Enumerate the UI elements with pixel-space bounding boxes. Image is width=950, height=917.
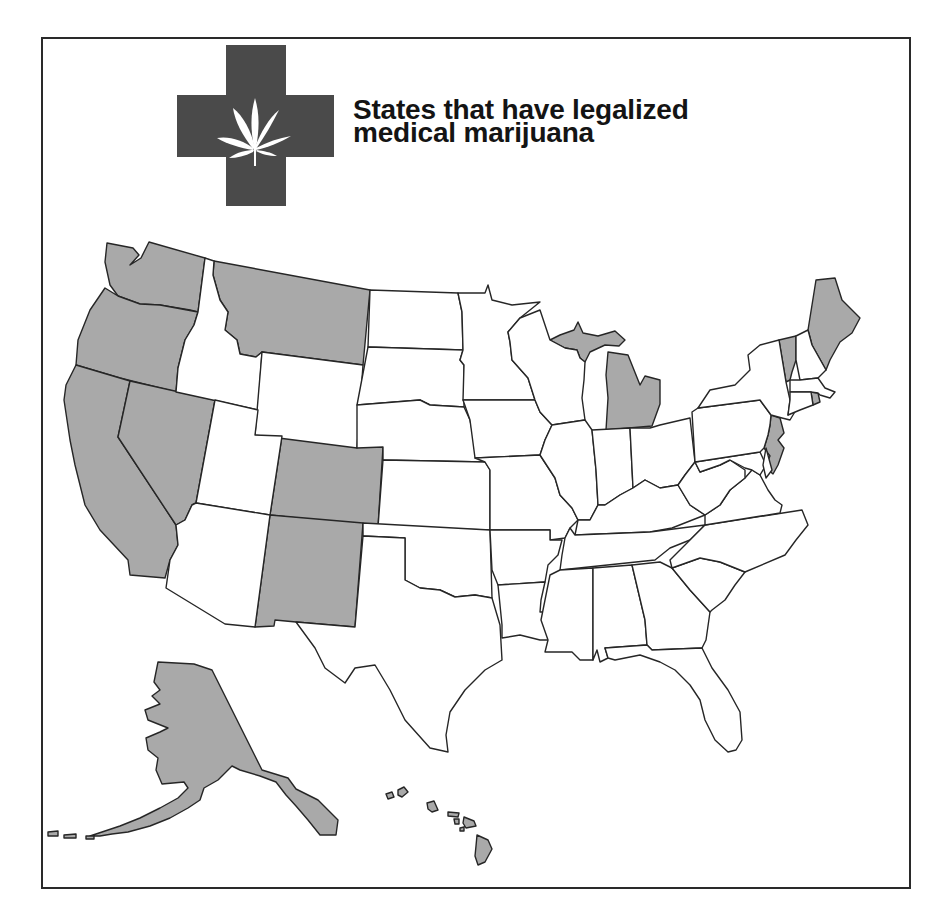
state-alaska-aleutians[interactable] bbox=[48, 831, 94, 839]
state-south-dakota[interactable] bbox=[357, 347, 464, 407]
state-florida[interactable] bbox=[605, 645, 742, 752]
state-new-mexico[interactable] bbox=[255, 515, 363, 627]
state-alaska[interactable] bbox=[90, 662, 338, 836]
state-michigan-lower[interactable] bbox=[606, 352, 660, 430]
state-colorado[interactable] bbox=[270, 436, 383, 527]
state-connecticut[interactable] bbox=[788, 392, 813, 415]
state-wyoming[interactable] bbox=[255, 352, 363, 448]
state-mississippi[interactable] bbox=[541, 568, 593, 660]
state-hawaii[interactable] bbox=[386, 787, 492, 865]
state-kansas[interactable] bbox=[378, 460, 490, 530]
us-map bbox=[0, 0, 950, 917]
state-north-dakota[interactable] bbox=[368, 290, 463, 350]
state-arizona[interactable] bbox=[166, 503, 270, 627]
state-pennsylvania[interactable] bbox=[692, 400, 771, 462]
